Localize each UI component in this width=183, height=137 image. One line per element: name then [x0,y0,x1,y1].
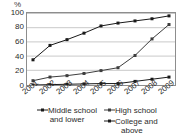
data-point [168,14,171,17]
data-point [168,23,171,26]
data-point [134,54,137,57]
legend-item-college[interactable]: College and above [104,117,180,135]
line-chart: % 100 80 60 40 20 0 2001 2002 2003 2004 … [0,0,183,137]
data-point [49,44,52,47]
data-point [117,66,120,69]
data-point [66,74,69,77]
y-tick-40: 40 [0,53,24,61]
data-point [117,22,120,25]
data-point [151,37,154,40]
data-point [32,58,35,61]
data-point [100,24,103,27]
plot-svg [27,13,175,85]
legend-item-middle-school[interactable]: Middle school and lower [33,106,101,124]
data-point [66,38,69,41]
legend-label-college-line1: College and [115,117,158,126]
legend-item-high-school[interactable]: High school [104,106,180,115]
data-point [151,17,154,20]
series-2 [32,23,171,82]
chart-legend: Middle school and lower High school Coll… [0,105,183,137]
series-1 [32,14,171,61]
y-tick-80: 80 [0,23,24,31]
plot-area [26,12,176,86]
series-line [33,16,169,60]
legend-label-middle-school-line2: and lower [33,115,101,124]
y-tick-100: 100 [0,9,24,17]
y-tick-60: 60 [0,38,24,46]
series-layer [32,14,171,85]
series-line [33,25,169,81]
legend-marker-middle-school [37,106,48,114]
data-point [134,19,137,22]
data-point [100,69,103,72]
data-point [83,32,86,35]
legend-label-high-school: High school [115,106,157,115]
legend-marker-high-school [104,106,115,114]
legend-marker-college [104,117,115,125]
y-tick-20: 20 [0,67,24,75]
legend-label-college-line2: above [121,126,180,135]
gridlines [27,14,175,71]
data-point [83,72,86,75]
legend-label-middle-school-line1: Middle school [48,106,97,115]
y-axis-unit-label: % [14,1,21,9]
